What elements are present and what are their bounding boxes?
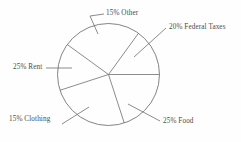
leader-line-food — [128, 104, 160, 121]
wedge-divider-clothing-rent — [60, 75, 109, 91]
slice-label-food: 25% Food — [163, 117, 194, 126]
slice-label-other: 15% Other — [106, 9, 138, 18]
wedge-divider-other-federal — [109, 33, 139, 74]
wedge-divider-food-clothing — [109, 75, 125, 124]
wedge-divider-rent-other — [67, 45, 108, 75]
leader-line-federal-taxes — [134, 28, 166, 57]
leader-line-clothing — [62, 107, 89, 124]
slice-label-federal-taxes: 20% Federal Taxes — [169, 23, 226, 32]
pie-chart-figure: 15% Other 20% Federal Taxes 25% Rent 15%… — [0, 0, 241, 142]
slice-label-clothing: 15% Clothing — [9, 115, 50, 124]
slice-label-rent: 25% Rent — [13, 63, 42, 72]
